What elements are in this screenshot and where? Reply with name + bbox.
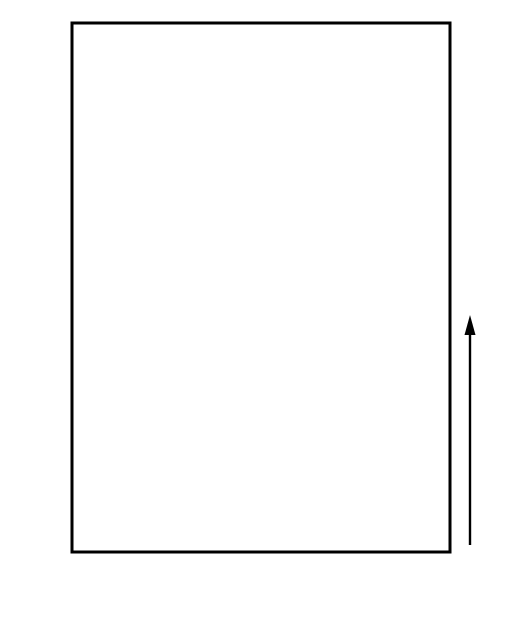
plot-canvas xyxy=(0,0,514,631)
plot-frame xyxy=(72,23,450,552)
figure-root xyxy=(0,0,514,631)
field-direction-arrow xyxy=(465,315,476,545)
figure-caption xyxy=(22,614,512,631)
